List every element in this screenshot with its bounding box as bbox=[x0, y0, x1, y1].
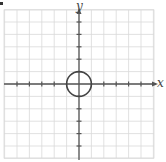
y-axis-label: y bbox=[76, 0, 83, 12]
coordinate-plane bbox=[0, 0, 166, 162]
axes bbox=[4, 8, 158, 160]
x-axis-label: x bbox=[157, 77, 164, 89]
